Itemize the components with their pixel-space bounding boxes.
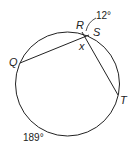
chord-rt [82,32,118,95]
arc-rs-label: 12° [96,10,111,21]
point-t-label: T [120,94,128,106]
angle-x-label: x [78,40,85,52]
point-r-label: R [76,19,84,31]
arc-qt-label: 189° [23,132,44,143]
point-s-label: S [93,26,101,38]
point-q-label: Q [9,56,18,68]
circle [16,32,120,136]
diagram-canvas: 12° R S x Q T 189° [0,0,133,149]
